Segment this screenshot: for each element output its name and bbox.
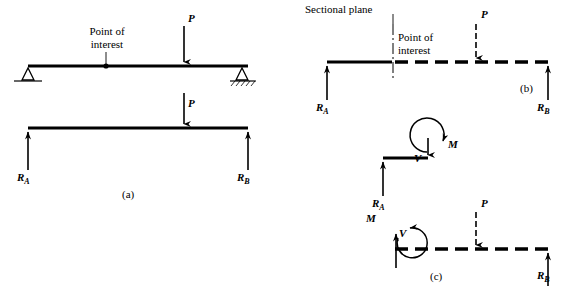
load-label-p-a-fb: P xyxy=(188,97,195,110)
panel-b-beam xyxy=(327,14,548,100)
moment-arrow-m-b xyxy=(410,118,444,152)
shear-label-v-b: V xyxy=(414,152,421,165)
shear-label-v-c: V xyxy=(399,227,406,240)
sectional-plane-label: Sectional plane xyxy=(305,3,373,16)
moment-label-m-b: M xyxy=(448,138,458,151)
load-label-p-c: P xyxy=(481,197,488,210)
reaction-label-ra-b-seg: RA xyxy=(372,197,385,212)
load-label-p-b: P xyxy=(481,8,488,21)
pin-support-triangle xyxy=(22,68,34,80)
point-of-interest-dot xyxy=(103,63,108,68)
moment-label-m-c: M xyxy=(366,212,376,225)
roller-support-triangle xyxy=(236,68,248,80)
load-label-p-a-top: P xyxy=(188,12,195,25)
reaction-label-rb-b: RB xyxy=(537,101,550,116)
reaction-label-rb-c: RB xyxy=(537,269,550,284)
reaction-label-rb-a: RB xyxy=(237,171,250,186)
panel-a-free-body xyxy=(28,93,248,170)
caption-a: (a) xyxy=(122,188,134,201)
reaction-label-ra-b: RA xyxy=(316,101,329,116)
caption-c: (c) xyxy=(430,270,442,283)
point-of-interest-label-a: Point of interest xyxy=(71,25,143,50)
reaction-label-ra-a: RA xyxy=(17,171,30,186)
caption-b: (b) xyxy=(520,82,533,95)
point-of-interest-label-b: Point of interest xyxy=(398,31,470,56)
panel-c-segment-free-body xyxy=(395,212,548,286)
